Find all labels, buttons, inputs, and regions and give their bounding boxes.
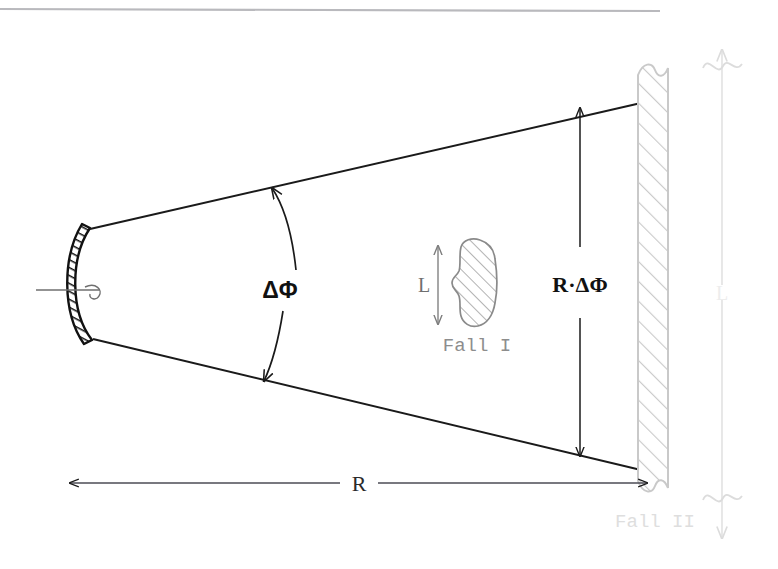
upper-ray (90, 103, 641, 229)
optics-diagram: ΔΦ L Fall I R·ΔΦ Fall II R L (0, 0, 778, 569)
lower-ray (93, 339, 641, 470)
case-one-label: Fall I (443, 335, 511, 357)
angle-arc-lower (264, 311, 283, 381)
case-two-label: Fall II (615, 511, 695, 533)
wall-length-label: L (716, 282, 728, 304)
curved-source (67, 224, 92, 344)
figure-canvas: ΔΦ L Fall I R·ΔΦ Fall II R L (0, 0, 778, 569)
projection-dim-label: R·ΔΦ (552, 272, 607, 297)
axis-hook-icon (85, 285, 100, 298)
object-length-label: L (418, 274, 430, 296)
projection-dim-label-text: R·ΔΦ (552, 272, 607, 297)
delta-phi-label: ΔΦ (262, 277, 298, 303)
radius-label: R (352, 471, 367, 496)
object-blob (452, 239, 497, 327)
angle-arc-upper (272, 188, 296, 270)
wall (638, 62, 668, 492)
page-edge-artifact (0, 9, 660, 11)
